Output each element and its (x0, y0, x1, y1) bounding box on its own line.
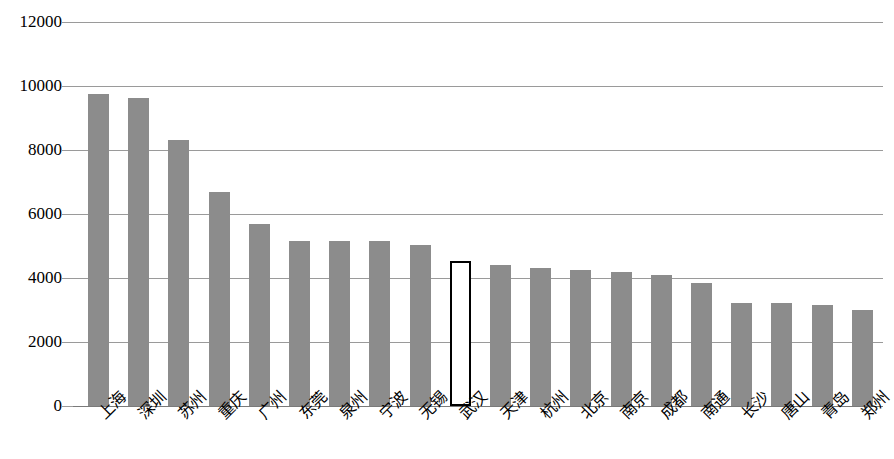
y-tick-label-4000: 4000 (0, 269, 62, 286)
bar-武汉 (450, 261, 471, 406)
y-tick-mark-10000 (62, 86, 73, 87)
y-tick-label-6000: 6000 (0, 205, 62, 222)
bar-深圳 (128, 98, 149, 406)
y-tick-label-8000: 8000 (0, 141, 62, 158)
bar-重庆 (209, 192, 230, 406)
bar-天津 (490, 265, 511, 406)
bar-广州 (249, 224, 270, 406)
y-tick-mark-4000 (62, 278, 73, 279)
bar-宁波 (369, 241, 390, 406)
bar-东莞 (289, 241, 310, 406)
y-tick-mark-6000 (62, 214, 73, 215)
bar-杭州 (530, 268, 551, 406)
bar-长沙 (731, 303, 752, 406)
bar-无锡 (410, 245, 431, 406)
bar-苏州 (168, 140, 189, 406)
y-tick-mark-2000 (62, 342, 73, 343)
bar-青岛 (812, 305, 833, 406)
bar-上海 (88, 94, 109, 406)
bar-唐山 (771, 303, 792, 406)
plot-area (72, 0, 883, 406)
bar-郑州 (852, 310, 873, 406)
bar-南京 (611, 272, 632, 406)
y-tick-label-2000: 2000 (0, 333, 62, 350)
y-tick-label-10000: 10000 (0, 77, 62, 94)
y-tick-mark-0 (62, 406, 73, 407)
bar-北京 (570, 270, 591, 406)
bar-成都 (651, 275, 672, 406)
y-axis: 120001000080006000400020000 (0, 0, 62, 459)
x-axis-labels: 上海深圳苏州重庆广州东莞泉州宁波无锡武汉天津杭州北京南京成都南通长沙唐山青岛郑州 (72, 406, 883, 459)
bars-layer (72, 0, 883, 406)
y-tick-label-0: 0 (0, 397, 62, 414)
bar-南通 (691, 283, 712, 406)
bar-泉州 (329, 241, 350, 406)
y-tick-label-12000: 12000 (0, 13, 62, 30)
y-tick-mark-8000 (62, 150, 73, 151)
y-tick-mark-12000 (62, 22, 73, 23)
